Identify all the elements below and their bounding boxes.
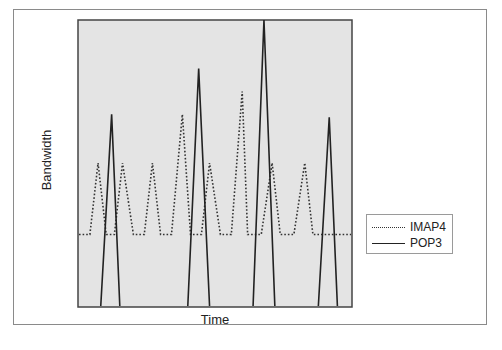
dotted-line-icon (372, 227, 405, 228)
x-axis-label: Time (201, 312, 229, 327)
legend-item-imap4: IMAP4 (367, 219, 452, 235)
solid-line-icon (372, 243, 405, 244)
y-axis-label: Bandwidth (39, 130, 54, 191)
legend-item-pop3: POP3 (367, 235, 452, 251)
legend-label: POP3 (410, 236, 442, 250)
legend: IMAP4 POP3 (366, 214, 453, 254)
legend-label: IMAP4 (410, 220, 446, 234)
line-chart (0, 0, 502, 350)
plot-area (78, 20, 352, 307)
